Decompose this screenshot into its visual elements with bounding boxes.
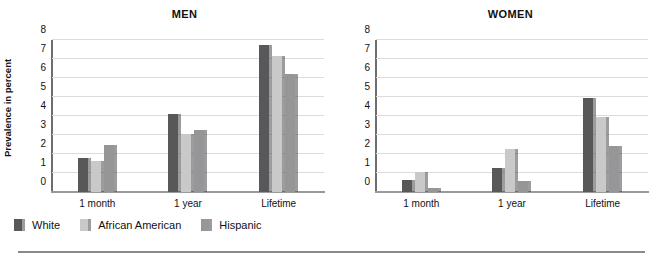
bar-face <box>181 134 191 192</box>
bar-group: 1 year <box>168 40 207 192</box>
bar <box>168 114 181 192</box>
legend-item[interactable]: White <box>14 219 60 231</box>
bar <box>272 56 285 192</box>
y-tick-label: 1 <box>364 158 370 168</box>
bar-face <box>259 45 269 192</box>
x-tick-label: Lifetime <box>585 198 620 209</box>
y-tick-label: 2 <box>40 139 46 149</box>
y-tick-label: 1 <box>40 158 46 168</box>
bar-side-shadow <box>114 145 117 192</box>
bar-groups-men: 1 month1 yearLifetime <box>52 40 324 192</box>
bar-face <box>168 114 178 192</box>
bar-face <box>91 161 101 192</box>
bar-group: Lifetime <box>259 40 298 192</box>
bar <box>428 188 441 192</box>
y-tick-label: 0 <box>364 177 370 187</box>
y-tick-label: 0 <box>40 177 46 187</box>
y-axis-title: Prevalence in percent <box>2 0 14 38</box>
legend-swatch-face <box>80 219 88 231</box>
bar-face <box>104 145 114 192</box>
bar-face <box>505 149 515 192</box>
plot-area-men: 012345678 1 month1 yearLifetime <box>52 40 324 192</box>
bar-group: 1 year <box>492 40 531 192</box>
bar-face <box>415 172 425 192</box>
y-tick-label: 4 <box>40 101 46 111</box>
bar-side-shadow <box>438 188 441 192</box>
bar-face <box>583 98 593 192</box>
legend-label: Hispanic <box>219 219 261 231</box>
bar <box>181 134 194 192</box>
bar <box>285 74 298 192</box>
y-tick-label: 5 <box>364 82 370 92</box>
bar <box>596 117 609 192</box>
bar-face <box>609 146 619 192</box>
bar-face <box>285 74 295 192</box>
y-tick-label: 3 <box>364 120 370 130</box>
y-tick-label: 4 <box>364 101 370 111</box>
legend-swatch-side <box>88 219 91 231</box>
x-tick-label: 1 month <box>403 198 439 209</box>
bar-group: Lifetime <box>583 40 622 192</box>
bar-group: 1 month <box>402 40 441 192</box>
bar-face <box>402 180 412 192</box>
chart-title-men: MEN <box>0 8 335 20</box>
bar <box>415 172 428 192</box>
bar <box>518 181 531 192</box>
legend-swatch-face <box>201 219 209 231</box>
chart-panel-men: MEN Prevalence in percent 012345678 1 mo… <box>0 0 335 216</box>
bar-face <box>518 181 528 192</box>
bar-side-shadow <box>619 146 622 192</box>
bar-face <box>428 188 438 192</box>
y-tick-label: 8 <box>364 25 370 35</box>
legend-swatch-icon <box>14 219 25 231</box>
legend-swatch-icon <box>80 219 91 231</box>
bar-face <box>194 130 204 192</box>
legend-swatch-side <box>22 219 25 231</box>
plot-area-women: 012345678 1 month1 yearLifetime <box>376 40 648 192</box>
x-tick-label: Lifetime <box>261 198 296 209</box>
bottom-divider <box>18 251 645 253</box>
bar <box>91 161 104 192</box>
bar <box>259 45 272 192</box>
bar-face <box>272 56 282 192</box>
x-tick-label: 1 year <box>498 198 526 209</box>
legend-item[interactable]: Hispanic <box>201 219 261 231</box>
bar-side-shadow <box>295 74 298 192</box>
bar-face <box>492 168 502 192</box>
bar <box>78 158 91 192</box>
y-tick-label: 8 <box>40 25 46 35</box>
chart-title-women: WOMEN <box>344 8 663 20</box>
chart-panel-women: WOMEN 012345678 1 month1 yearLifetime <box>344 0 663 216</box>
bar <box>402 180 415 192</box>
bar <box>505 149 518 192</box>
y-tick-label: 3 <box>40 120 46 130</box>
bar-groups-women: 1 month1 yearLifetime <box>376 40 648 192</box>
chart-legend: WhiteAfrican AmericanHispanic <box>14 219 261 231</box>
bar-side-shadow <box>528 181 531 192</box>
legend-label: White <box>32 219 60 231</box>
legend-swatch-side <box>209 219 212 231</box>
x-tick-label: 1 year <box>174 198 202 209</box>
bar <box>583 98 596 192</box>
legend-swatch-icon <box>201 219 212 231</box>
y-tick-label: 7 <box>40 44 46 54</box>
legend-swatch-face <box>14 219 22 231</box>
y-tick-label: 6 <box>40 63 46 73</box>
bar <box>609 146 622 192</box>
figure-container: MEN Prevalence in percent 012345678 1 mo… <box>0 0 663 262</box>
bar <box>194 130 207 192</box>
bar-face <box>596 117 606 192</box>
bar <box>104 145 117 192</box>
y-tick-label: 5 <box>40 82 46 92</box>
y-tick-label: 7 <box>364 44 370 54</box>
legend-item[interactable]: African American <box>80 219 181 231</box>
legend-label: African American <box>98 219 181 231</box>
bar <box>492 168 505 192</box>
bar-side-shadow <box>204 130 207 192</box>
y-tick-label: 2 <box>364 139 370 149</box>
bar-group: 1 month <box>78 40 117 192</box>
x-tick-label: 1 month <box>79 198 115 209</box>
bar-face <box>78 158 88 192</box>
y-tick-label: 6 <box>364 63 370 73</box>
y-axis-title-text: Prevalence in percent <box>2 38 13 178</box>
